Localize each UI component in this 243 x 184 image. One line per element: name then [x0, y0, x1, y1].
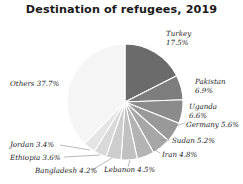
slice-label-bangladesh: Bangladesh 4.2%: [34, 166, 98, 175]
slice-label-turkey-value: 17.5%: [166, 38, 189, 47]
slice-label-jordan: Jordan 3.4%: [8, 140, 54, 149]
slice-label-others: Others 37.7%: [10, 79, 60, 88]
slice-label-pakistan-value: 6.9%: [195, 86, 213, 95]
slice-label-uganda-value: 6.6%: [189, 111, 207, 120]
pie-chart-svg: Turkey 17.5% Pakistan 6.9% Uganda 6.6% G…: [0, 0, 243, 184]
slice-label-iran: Iran 4.8%: [161, 150, 198, 159]
slice-label-turkey-name: Turkey: [166, 29, 192, 38]
slice-label-sudan: Sudan 5.2%: [172, 136, 215, 145]
pie-slice-group: [67, 44, 183, 160]
leader-line-ethiopia: [64, 155, 100, 157]
leader-line-jordan: [60, 145, 90, 150]
slice-label-germany: Germany 5.6%: [186, 120, 239, 129]
slice-label-uganda-name: Uganda: [189, 102, 217, 111]
pie-chart-figure: Destination of refugees, 2019 Turkey 17.…: [0, 0, 243, 184]
slice-label-lebanon: Lebanon 4.5%: [103, 165, 156, 174]
slice-label-ethiopia: Ethiopia 3.6%: [9, 153, 61, 162]
slice-label-pakistan-name: Pakistan: [194, 77, 226, 86]
